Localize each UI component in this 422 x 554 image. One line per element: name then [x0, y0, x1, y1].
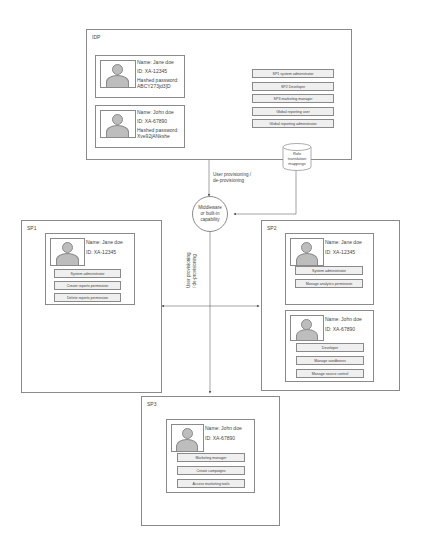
avatar-icon: [171, 424, 204, 452]
provisioning-note: User provisioning / de-provisioning: [213, 172, 251, 184]
avatar-icon: [290, 238, 324, 266]
role-store-label: mappings: [282, 161, 312, 166]
vertical-provisioning-note: User provisioning / de-provisioning: [186, 253, 198, 289]
user-name: Name: John doe: [205, 425, 242, 431]
password-value: Xve92jANkshe: [137, 133, 170, 139]
idp-role: Global reporting administrator: [252, 119, 334, 128]
user-id: ID: XA-12345: [86, 249, 116, 255]
idp-user-card-john: Name: John doe ID: XA-67890 Hashed passw…: [95, 105, 185, 148]
idp-role: SP2 Developer: [252, 82, 334, 91]
sp1-role: Create reports permission: [54, 281, 121, 290]
provisioning-note-line: de-provisioning: [213, 178, 251, 184]
user-id: ID: XA-12345: [325, 249, 355, 255]
sp3-role: Marketing manager: [177, 453, 245, 462]
sp1-role: Delete reports permission: [54, 293, 121, 302]
sp3-role: Access marketing tools: [177, 479, 245, 488]
user-id: ID: XA-67890: [137, 118, 167, 124]
idp-user-card-jane: Name: Jane doe ID: XA-12345 Hashed passw…: [95, 55, 185, 98]
avatar-icon: [100, 110, 136, 138]
user-name: Name: Jane doe: [86, 239, 123, 245]
sp2-role: System administrator: [295, 266, 363, 275]
sp3-label: SP3: [147, 401, 156, 407]
avatar-icon: [100, 60, 136, 88]
avatar-icon: [50, 238, 85, 266]
user-id: ID: XA-12345: [137, 68, 167, 74]
password-value: ABCY273jd3]D: [137, 83, 171, 89]
sp2-role: Manage sandboxes: [296, 356, 364, 365]
sp1-label: SP1: [27, 225, 36, 231]
user-id: ID: XA-67890: [205, 435, 235, 441]
sp2-role: Developer: [296, 343, 364, 352]
user-name: Name: Jane doe: [137, 59, 174, 65]
role-store-database-icon: Role translation mappings: [282, 143, 312, 171]
sp2-label: SP2: [267, 225, 276, 231]
sp1-role: System administrator: [54, 269, 121, 278]
user-name: Name: John doe: [137, 109, 174, 115]
middleware-label: capability: [198, 217, 222, 223]
vertical-note-line: / de-provisioning: [192, 253, 198, 289]
idp-role: Global reporting user: [252, 107, 334, 116]
sp2-role: Manage source control: [296, 369, 364, 378]
sp3-role: Create campaigns: [177, 466, 245, 475]
idp-role: SP3 marketing manager: [252, 94, 334, 103]
sp2-role: Manage analytics permission: [295, 279, 363, 288]
idp-role: SP1 system administrator: [252, 69, 334, 78]
user-name: Name: John doe: [325, 316, 362, 322]
idp-label: IDP: [92, 34, 100, 40]
user-id: ID: XA-67890: [325, 326, 355, 332]
avatar-icon: [290, 315, 324, 341]
middleware-node: Middleware or built-in capability: [192, 196, 228, 232]
user-name: Name: Jane doe: [325, 239, 362, 245]
